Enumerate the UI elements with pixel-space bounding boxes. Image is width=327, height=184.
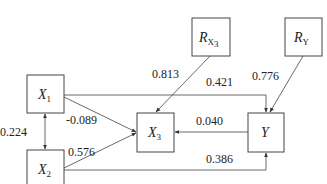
- coef-x1-x3: -0.089: [66, 113, 97, 127]
- coef-x1-x2: 0.224: [0, 125, 27, 139]
- path-diagram: X1 X2 X3 Y RX3 RY 0.224 -0.089 0.576 0.8…: [0, 0, 327, 184]
- coef-y-x3: 0.040: [196, 114, 223, 128]
- edge-x1-y: [64, 95, 266, 112]
- edge-rx3-x3: [156, 56, 210, 112]
- coef-x2-x3: 0.576: [68, 145, 95, 159]
- edge-ry-y: [270, 56, 303, 112]
- coef-x2-y: 0.386: [206, 152, 233, 166]
- coef-x1-y: 0.421: [206, 75, 233, 89]
- coef-ry-y: 0.776: [252, 69, 279, 83]
- coef-rx3-x3: 0.813: [152, 67, 179, 81]
